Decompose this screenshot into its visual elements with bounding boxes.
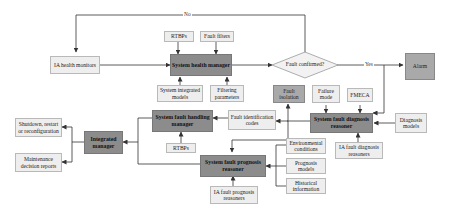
- edge-label-yes: Yes: [364, 61, 374, 67]
- node-historical-information: Historical information: [286, 178, 326, 194]
- node-prognosis-models: Prognosis models: [286, 158, 326, 174]
- node-maintenance-decision-reports: Maintenance decision reports: [15, 153, 62, 172]
- node-rtbps-bottom: RTBPs: [166, 143, 196, 153]
- node-fmeca: FMECA: [347, 88, 373, 102]
- diagram-canvas: No Yes IA health monitors RTBPs Fault fi…: [0, 0, 451, 217]
- node-fault-confirmed: Fault confirmed?: [276, 61, 334, 67]
- node-system-fault-prognosis-reasoner: System fault prognosis reasoner: [200, 155, 266, 177]
- node-fault-filters: Fault filters: [200, 31, 234, 42]
- node-fault-identification-codes: Fault identification codes: [228, 110, 276, 130]
- node-ia-fault-prognosis-reasoners: IA fault prognosis reasoners: [210, 186, 258, 204]
- node-ia-fault-diagnosis-reasoners: IA fault diagnosis reasoners: [335, 142, 383, 159]
- node-rtbps-top: RTBPs: [164, 31, 194, 42]
- node-system-fault-diagnosis-reasoner: System fault diagnosis reasoner: [310, 113, 373, 133]
- node-shutdown-restart: Shutdown, restart or reconfiguration: [15, 118, 62, 137]
- node-integrated-manager: Integrated manager: [84, 131, 123, 154]
- node-diagnosis-models: Diagnosis models: [395, 113, 427, 133]
- node-alarm: Alarm: [405, 53, 435, 80]
- node-system-fault-handling-manager: System fault handling manager: [152, 110, 213, 132]
- node-system-health-manager: System health manager: [170, 54, 232, 76]
- node-ia-health-monitors: IA health monitors: [50, 56, 100, 74]
- node-system-integrated-models: System integrated models: [157, 85, 203, 102]
- node-fault-isolation: Fault isolation: [273, 85, 305, 103]
- node-environmental-conditions: Environmental conditions: [286, 138, 326, 154]
- node-failure-mode: Failure mode: [312, 85, 340, 103]
- node-filtering-parameters: Filtering parameters: [210, 85, 244, 102]
- edge-label-no: No: [183, 11, 192, 17]
